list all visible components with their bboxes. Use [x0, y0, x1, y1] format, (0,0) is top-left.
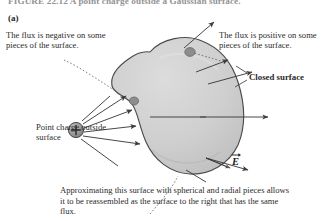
field-line-1 — [83, 96, 126, 124]
annotation-point-charge: Point charge outside surface — [36, 122, 128, 143]
gaussian-surface-outline — [112, 38, 244, 174]
closed-surface-shape — [112, 38, 244, 174]
figure-top-caption: FIGURE 22.12 A point charge outside a Ga… — [8, 0, 330, 6]
field-label-text: E — [232, 156, 239, 167]
field-line-6 — [82, 96, 110, 121]
field-label-E: E — [232, 156, 239, 167]
annotation-flux-positive: The flux is positive on some pieces of t… — [219, 30, 331, 51]
surface-patch-positive — [185, 48, 195, 57]
panel-label-a: (a) — [8, 13, 19, 23]
annotation-flux-negative: The flux is negative on some pieces of t… — [6, 30, 118, 51]
figure-root: FIGURE 22.12 A point charge outside a Ga… — [0, 0, 334, 221]
field-line-5 — [81, 139, 118, 166]
figure-bottom-caption: Approximating this surface with spherica… — [60, 185, 290, 217]
surface-patch-negative — [129, 97, 138, 105]
annotation-closed-surface: Closed surface — [249, 72, 309, 83]
